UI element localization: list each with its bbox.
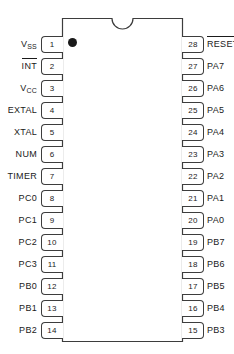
pin-label-14: PB2: [19, 322, 37, 339]
pin-box-16: 16: [182, 300, 204, 317]
dip-pinout-diagram: 1VSS2INT3VCC4EXTAL5XTAL6NUM7TIMER8PC09PC…: [0, 0, 234, 354]
pin-label-9: PC1: [19, 212, 37, 229]
pin-box-20: 20: [182, 212, 204, 229]
pin-box-19: 19: [182, 234, 204, 251]
pin-label-15: PB3: [207, 322, 225, 339]
pin-box-27: 27: [182, 58, 204, 75]
pin-box-25: 25: [182, 102, 204, 119]
pin-box-22: 22: [182, 168, 204, 185]
pin-box-17: 17: [182, 278, 204, 295]
pin-box-2: 2: [41, 58, 63, 75]
pin-label-27: PA7: [207, 58, 224, 75]
pin-label-26: PA6: [207, 80, 224, 97]
pin-1-marker-dot: [68, 38, 77, 47]
pin-label-23: PA3: [207, 146, 224, 163]
pin-label-12: PB0: [19, 278, 37, 295]
pin-box-24: 24: [182, 124, 204, 141]
pin-label-16: PB4: [207, 300, 225, 317]
pin-label-5: XTAL: [14, 124, 37, 141]
pin-box-6: 6: [41, 146, 63, 163]
pin-label-4: EXTAL: [8, 102, 37, 119]
pin-label-subscript: SS: [27, 43, 37, 50]
pin-box-28: 28: [182, 36, 204, 53]
pin-label-24: PA4: [207, 124, 224, 141]
pin-label-8: PC0: [19, 190, 37, 207]
pin-box-10: 10: [41, 234, 63, 251]
pin-label-3: VCC: [20, 80, 37, 97]
pin-box-8: 8: [41, 190, 63, 207]
pin-box-12: 12: [41, 278, 63, 295]
pin-box-9: 9: [41, 212, 63, 229]
pin-label-overline: INT: [22, 58, 37, 73]
pin-label-28: RESET: [207, 36, 234, 53]
pin-label-2: INT: [22, 58, 37, 75]
pin-box-14: 14: [41, 322, 63, 339]
pin-label-overline: RESET: [207, 36, 234, 51]
pin-label-19: PB7: [207, 234, 225, 251]
pin-box-5: 5: [41, 124, 63, 141]
pin-box-23: 23: [182, 146, 204, 163]
pin-box-3: 3: [41, 80, 63, 97]
pin-box-11: 11: [41, 256, 63, 273]
pin-label-7: TIMER: [8, 168, 38, 185]
pin-label-22: PA2: [207, 168, 224, 185]
chip-body-outline: [62, 18, 183, 342]
pin-label-20: PA0: [207, 212, 224, 229]
pin-label-11: PC3: [19, 256, 37, 273]
pin-label-10: PC2: [19, 234, 37, 251]
pin-label-18: PB6: [207, 256, 225, 273]
pin-box-26: 26: [182, 80, 204, 97]
pin-label-1: VSS: [21, 36, 37, 53]
pin-box-21: 21: [182, 190, 204, 207]
pin-box-15: 15: [182, 322, 204, 339]
pin-box-1: 1: [41, 36, 63, 53]
pin-box-13: 13: [41, 300, 63, 317]
pin-label-17: PB5: [207, 278, 225, 295]
pin-box-4: 4: [41, 102, 63, 119]
pin-label-13: PB1: [19, 300, 37, 317]
pin-label-subscript: CC: [26, 87, 37, 94]
pin-label-21: PA1: [207, 190, 224, 207]
pin-label-6: NUM: [16, 146, 37, 163]
pin-label-25: PA5: [207, 102, 224, 119]
pin-box-7: 7: [41, 168, 63, 185]
pin-box-18: 18: [182, 256, 204, 273]
